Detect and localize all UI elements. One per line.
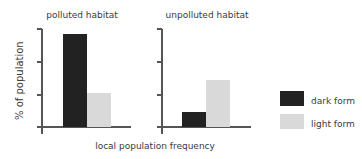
bar-polluted-dark-form [63, 34, 87, 127]
y-axis-label: % of population [14, 41, 25, 120]
y-tick [157, 94, 162, 96]
y-tick [157, 28, 162, 30]
legend-label-light-form: light form [311, 119, 355, 129]
bar-unpolluted-dark-form [182, 112, 206, 127]
y-axis-unpolluted [161, 29, 163, 134]
y-tick [37, 28, 42, 30]
y-tick [157, 61, 162, 63]
y-tick [37, 94, 42, 96]
panel-title-polluted: polluted habitat [46, 10, 118, 20]
x-axis-label: local population frequency [95, 141, 215, 151]
bar-polluted-light-form [87, 93, 111, 127]
bar-unpolluted-light-form [206, 80, 230, 127]
legend-swatch-dark-form [280, 91, 304, 106]
y-tick [37, 61, 42, 63]
legend-label-dark-form: dark form [311, 96, 355, 106]
legend-swatch-light-form [280, 114, 304, 129]
y-axis-polluted [41, 29, 43, 134]
panel-title-unpolluted: unpolluted habitat [166, 10, 249, 20]
